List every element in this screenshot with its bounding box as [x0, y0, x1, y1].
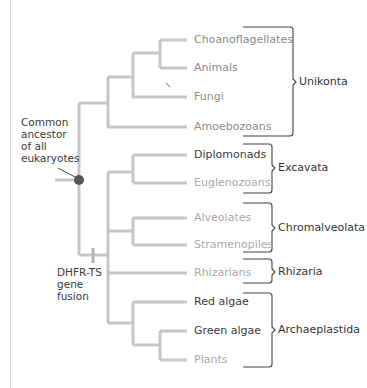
ancestor-pointer-line [58, 168, 77, 178]
group-brackets [243, 27, 296, 367]
taxon-alveolates: Alveolates [194, 211, 251, 224]
taxon-choanoflagellates: Choanoflagellates [194, 33, 293, 46]
taxon-stramenopiles: Stramenopiles [194, 238, 273, 251]
taxon-animals: Animals [194, 61, 238, 74]
gene-fusion-line-1: DHFR-TS [57, 266, 102, 278]
group-excavata: Excavata [278, 161, 328, 174]
common-ancestor-line-1: Common [21, 116, 79, 128]
taxon-diplomonads: Diplomonads [194, 148, 266, 161]
taxon-plants: Plants [194, 353, 227, 366]
taxon-euglenozoans: Euglenozoans [194, 176, 270, 189]
tree-branches [55, 40, 187, 360]
common-ancestor-line-3: of all [21, 140, 79, 152]
common-ancestor-line-4: eukaryotes [21, 152, 79, 164]
amoebozoans-branch [108, 77, 187, 127]
taxon-amoebozoans: Amoebozoans [194, 120, 271, 133]
group-chromalveolata: Chromalveolata [278, 221, 365, 234]
taxon-green-algae: Green algae [194, 324, 261, 337]
common-ancestor-label: Common ancestor of all eukaryotes [21, 116, 79, 164]
gene-fusion-line-2: gene [57, 278, 102, 290]
group-archaeplastida: Archaeplastida [278, 323, 360, 336]
group-unikonta: Unikonta [299, 75, 348, 88]
gene-fusion-label: DHFR-TS gene fusion [57, 266, 102, 302]
common-ancestor-node-icon [74, 175, 84, 185]
gene-fusion-line-3: fusion [57, 290, 102, 302]
taxon-red-algae: Red algae [194, 295, 249, 308]
common-ancestor-line-2: ancestor [21, 128, 79, 140]
taxon-fungi: Fungi [194, 90, 224, 103]
group-rhizaria: Rhizaria [278, 265, 323, 278]
stray-mark [166, 83, 170, 87]
taxon-rhizarians: Rhizarians [194, 266, 251, 279]
